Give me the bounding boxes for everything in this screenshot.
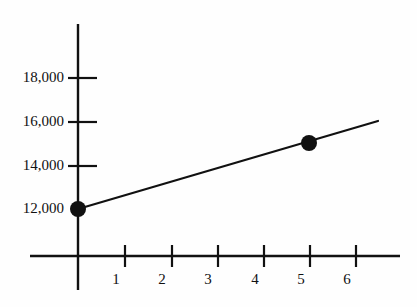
chart-plot-area	[0, 0, 417, 307]
line-chart-figure: 18,000 16,000 14,000 12,000 1 2 3 4 5 6	[0, 0, 417, 307]
x-tick-label-5: 5	[293, 272, 309, 287]
y-axis-ticks	[68, 78, 97, 166]
y-tick-label-16000: 16,000	[14, 114, 64, 129]
x-tick-label-3: 3	[200, 272, 216, 287]
y-tick-label-12000: 12,000	[14, 201, 64, 216]
x-tick-label-2: 2	[154, 272, 170, 287]
data-line-series	[78, 121, 378, 209]
y-tick-label-14000: 14,000	[14, 158, 64, 173]
y-tick-label-18000: 18,000	[14, 70, 64, 85]
data-point-marker	[70, 201, 86, 217]
data-point-marker	[301, 135, 317, 151]
x-tick-label-4: 4	[247, 272, 263, 287]
x-tick-label-6: 6	[339, 272, 355, 287]
x-tick-label-1: 1	[108, 272, 124, 287]
